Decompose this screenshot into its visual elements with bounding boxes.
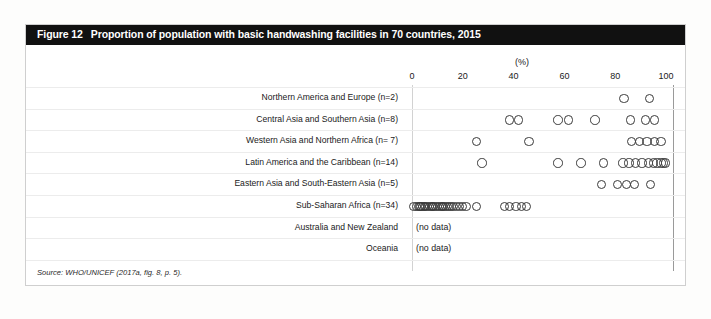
row-label-7: Oceania bbox=[366, 243, 398, 253]
data-point bbox=[619, 94, 628, 103]
row-dots bbox=[412, 196, 666, 217]
x-tick-40: 40 bbox=[509, 71, 519, 81]
x-tick-80: 80 bbox=[610, 71, 620, 81]
figure-number: Figure 12 bbox=[37, 28, 83, 40]
row-dots bbox=[412, 88, 666, 109]
data-point bbox=[646, 180, 655, 189]
x-tick-100: 100 bbox=[658, 71, 673, 81]
data-point bbox=[630, 180, 639, 189]
data-point bbox=[472, 202, 481, 211]
data-point bbox=[428, 202, 437, 211]
x-axis-tick-labels: 020406080100 bbox=[26, 71, 685, 83]
chart-row: Western Asia and Northern Africa (n= 7) bbox=[26, 131, 685, 153]
row-label-3: Latin America and the Caribbean (n=14) bbox=[245, 157, 398, 167]
data-point bbox=[553, 115, 562, 124]
data-point bbox=[599, 158, 608, 167]
data-point bbox=[514, 115, 523, 124]
x-tick-0: 0 bbox=[409, 71, 414, 81]
x-axis-unit-label: (%) bbox=[515, 57, 529, 67]
data-point bbox=[641, 115, 650, 124]
chart-plot-area: (%) 020406080100 Northern America and Eu… bbox=[26, 45, 685, 287]
data-point bbox=[656, 137, 665, 146]
row-dots bbox=[412, 153, 666, 174]
data-point bbox=[553, 158, 562, 167]
row-label-6: Australia and New Zealand bbox=[295, 222, 398, 232]
figure-title-text: Proportion of population with basic hand… bbox=[91, 28, 481, 40]
data-point bbox=[522, 202, 531, 211]
x-tick-20: 20 bbox=[458, 71, 468, 81]
data-point bbox=[477, 158, 486, 167]
data-point bbox=[661, 158, 670, 167]
chart-row: Australia and New Zealand(no data) bbox=[26, 218, 685, 240]
figure-panel: Figure 12Proportion of population with b… bbox=[25, 24, 686, 286]
chart-row: Central Asia and Southern Asia (n=8) bbox=[26, 110, 685, 132]
figure-title: Figure 12Proportion of population with b… bbox=[37, 28, 481, 40]
data-point bbox=[472, 137, 481, 146]
category-rows: Northern America and Europe (n=2)Central… bbox=[26, 87, 685, 261]
row-label-5: Sub-Saharan Africa (n=34) bbox=[296, 200, 398, 210]
row-label-2: Western Asia and Northern Africa (n= 7) bbox=[246, 135, 398, 145]
chart-row: Sub-Saharan Africa (n=34) bbox=[26, 196, 685, 218]
data-point bbox=[645, 94, 654, 103]
row-label-1: Central Asia and Southern Asia (n=8) bbox=[256, 114, 398, 124]
chart-row: Northern America and Europe (n=2) bbox=[26, 87, 685, 110]
data-point bbox=[626, 115, 635, 124]
no-data-label: (no data) bbox=[416, 243, 451, 253]
no-data-label: (no data) bbox=[416, 222, 451, 232]
row-dots bbox=[412, 110, 666, 131]
source-note: Source: WHO/UNICEF (2017a, fig. 8, p. 5)… bbox=[37, 268, 182, 277]
row-dots bbox=[412, 174, 666, 195]
data-point bbox=[524, 137, 533, 146]
data-point bbox=[650, 115, 659, 124]
row-label-0: Northern America and Europe (n=2) bbox=[262, 92, 398, 102]
chart-row: Latin America and the Caribbean (n=14) bbox=[26, 153, 685, 175]
chart-row: Eastern Asia and South-Eastern Asia (n=5… bbox=[26, 174, 685, 196]
data-point bbox=[597, 180, 606, 189]
data-point bbox=[438, 202, 447, 211]
data-point bbox=[461, 202, 470, 211]
row-dots bbox=[412, 131, 666, 152]
x-tick-60: 60 bbox=[559, 71, 569, 81]
figure-title-bar: Figure 12Proportion of population with b… bbox=[26, 25, 685, 45]
data-point bbox=[564, 115, 573, 124]
data-point bbox=[576, 158, 585, 167]
row-label-4: Eastern Asia and South-Eastern Asia (n=5… bbox=[234, 178, 398, 188]
chart-row: Oceania(no data) bbox=[26, 239, 685, 261]
data-point bbox=[590, 115, 599, 124]
